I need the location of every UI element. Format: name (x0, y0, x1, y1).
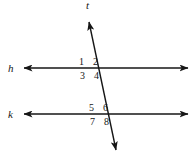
angle-label-5: 5 (89, 102, 94, 113)
geometry-canvas: h k t 1 2 3 4 5 6 7 8 (0, 0, 194, 154)
label-line-h: h (8, 62, 14, 74)
line-t-transversal (89, 22, 116, 150)
angle-label-1: 1 (79, 56, 84, 67)
angle-label-6: 6 (103, 102, 108, 113)
angle-label-4: 4 (94, 70, 99, 81)
angle-label-2: 2 (93, 56, 98, 67)
angle-label-8: 8 (104, 116, 109, 127)
geometry-figure: h k t 1 2 3 4 5 6 7 8 (0, 0, 194, 154)
angle-label-7: 7 (90, 116, 95, 127)
label-line-k: k (8, 108, 14, 120)
angle-label-3: 3 (80, 70, 85, 81)
label-line-t: t (86, 0, 90, 11)
